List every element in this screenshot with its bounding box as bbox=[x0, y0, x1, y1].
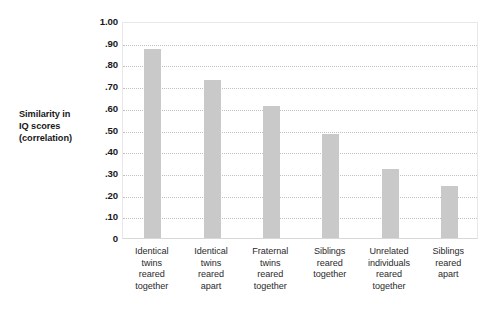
x-axis-label-line: apart bbox=[412, 269, 484, 281]
gridline bbox=[123, 153, 477, 155]
y-tick-label: .80 bbox=[84, 59, 118, 70]
gridline bbox=[123, 88, 477, 90]
bar bbox=[144, 49, 161, 238]
y-tick-label: .70 bbox=[84, 81, 118, 92]
iq-similarity-bar-chart: Similarity in IQ scores (correlation) 1.… bbox=[0, 0, 501, 312]
gridline bbox=[123, 197, 477, 199]
y-tick-label: .30 bbox=[84, 168, 118, 179]
gridline bbox=[123, 175, 477, 177]
x-axis-label-line: together bbox=[353, 281, 425, 293]
y-tick-label: 1.00 bbox=[84, 16, 118, 27]
bar bbox=[263, 106, 280, 238]
y-tick-label: .40 bbox=[84, 146, 118, 157]
y-tick-label: .10 bbox=[84, 211, 118, 222]
gridline bbox=[123, 66, 477, 68]
x-axis-label-line: together bbox=[234, 281, 306, 293]
bar bbox=[441, 186, 458, 238]
bar bbox=[204, 80, 221, 238]
x-axis-label: Siblingsrearedapart bbox=[412, 246, 484, 281]
gridline bbox=[123, 45, 477, 47]
y-tick-label: 0 bbox=[84, 233, 118, 244]
plot-area bbox=[122, 22, 478, 239]
bar bbox=[322, 134, 339, 238]
y-tick-label: .60 bbox=[84, 103, 118, 114]
bar bbox=[382, 169, 399, 238]
y-tick-label: .50 bbox=[84, 125, 118, 136]
x-axis-label-line: Siblings bbox=[412, 246, 484, 258]
y-tick-label: .90 bbox=[84, 38, 118, 49]
gridline bbox=[123, 110, 477, 112]
x-axis-label-line: reared bbox=[412, 258, 484, 270]
gridline bbox=[123, 132, 477, 134]
y-tick-label: .20 bbox=[84, 190, 118, 201]
gridline bbox=[123, 218, 477, 220]
